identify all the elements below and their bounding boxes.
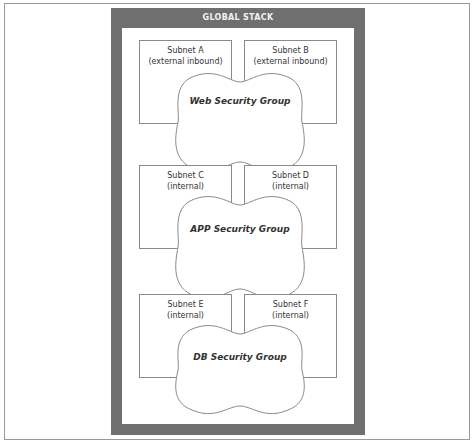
subnet-name: Subnet E (140, 299, 231, 310)
app-security-group-label: APP Security Group (170, 224, 310, 234)
stack-title: GLOBAL STACK (111, 8, 365, 28)
subnet-name: Subnet A (140, 45, 231, 56)
subnet-name: Subnet F (245, 299, 336, 310)
subnet-type: (external inbound) (245, 56, 336, 67)
app-security-group-cloud-shape (170, 191, 310, 303)
subnet-name: Subnet B (245, 45, 336, 56)
web-security-group-label: Web Security Group (170, 96, 310, 106)
subnet-name: Subnet D (245, 170, 336, 181)
global-stack: GLOBAL STACK Subnet A (external inbound)… (111, 8, 365, 435)
stack-body: Subnet A (external inbound) Subnet B (ex… (122, 28, 354, 424)
subnet-name: Subnet C (140, 170, 231, 181)
subnet-type: (external inbound) (140, 56, 231, 67)
db-security-group-cloud-shape (170, 320, 310, 418)
db-security-group-label: DB Security Group (170, 352, 310, 362)
web-security-group-cloud-shape (170, 68, 310, 176)
